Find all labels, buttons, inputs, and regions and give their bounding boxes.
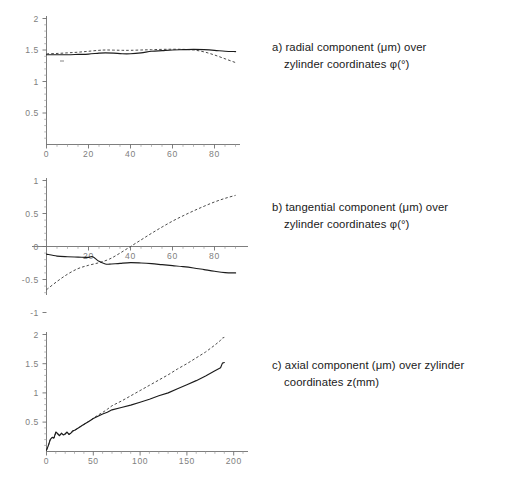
chart-c-xtick-100: 100 [132,456,148,466]
chart-c-x-ticks [47,452,244,456]
chart-a-series-simulated [47,49,236,62]
chart-c-series-measured [47,363,225,451]
panel-b-caption: b) tangential component (μm) over zylind… [272,182,448,250]
panel-c: 2 1.5 1 0.5 [0,320,532,481]
chart-c-xtick-50: 50 [88,456,99,466]
chart-b-ytick-1: 1 [34,176,39,186]
chart-b-xtick-40: 40 [125,251,136,261]
chart-b-ytick-neg0p5: -0.5 [22,275,39,285]
chart-c-y-ticks [43,335,47,446]
chart-a-ytick-1: 1 [34,77,39,87]
chart-c-series-simulated [47,337,225,450]
chart-a-ytick-0p5: 0.5 [25,108,39,118]
chart-b-ytick-0: 0 [34,242,39,252]
chart-c-ytick-2: 2 [34,330,39,340]
chart-a-ytick-1p5: 1.5 [25,45,39,55]
chart-a-xtick-20: 20 [83,149,94,159]
chart-c-svg: 2 1.5 1 0.5 [0,320,266,481]
panel-a-plot: 2 1.5 1 0.5 [0,0,266,160]
chart-b-xtick-20: 20 [83,251,94,261]
panel-a-caption-line2: zylinder coordinates φ(°) [272,56,426,73]
panel-c-caption-line2: coordinates z(mm) [272,374,464,391]
chart-a-xtick-40: 40 [125,149,136,159]
chart-b-xtick-80: 80 [209,251,220,261]
chart-a-ytick-2: 2 [34,14,39,24]
chart-b-x-ticks [57,247,236,251]
panel-c-caption-line1: c) axial component (μm) over zylinder [272,359,464,371]
panel-b-caption-line2: zylinder coordinates φ(°) [272,216,448,233]
chart-a-xtick-0: 0 [44,149,49,159]
chart-b-y-ticks [43,181,47,313]
chart-c-xtick-150: 150 [179,456,195,466]
panel-b: 1 0.5 0 -0.5 -1 [0,160,532,320]
chart-b-xtick-60: 60 [167,251,178,261]
panel-b-caption-line1: b) tangential component (μm) over [272,201,448,213]
chart-c-xtick-200: 200 [226,456,242,466]
chart-c-ytick-1p5: 1.5 [25,359,39,369]
chart-a-svg: 2 1.5 1 0.5 [0,0,266,160]
chart-b-series-simulated [47,195,236,289]
chart-c-ytick-0p5: 0.5 [25,417,39,427]
panel-c-plot: 2 1.5 1 0.5 [0,320,266,481]
chart-c-ytick-1: 1 [34,388,39,398]
chart-b-ytick-0p5: 0.5 [25,209,39,219]
panel-c-caption: c) axial component (μm) over zylinder co… [272,340,464,408]
panel-a: 2 1.5 1 0.5 [0,0,532,160]
chart-a-x-ticks [47,145,236,149]
panel-b-plot: 1 0.5 0 -0.5 -1 [0,160,266,320]
chart-a-xtick-60: 60 [167,149,178,159]
panel-a-caption-line1: a) radial component (μm) over [272,41,426,53]
figure-root: 2 1.5 1 0.5 [0,0,532,481]
chart-a-xtick-80: 80 [209,149,220,159]
chart-c-xtick-0: 0 [44,456,49,466]
chart-a-y-ticks [43,19,47,139]
chart-b-ytick-neg1: -1 [30,308,39,318]
chart-b-svg: 1 0.5 0 -0.5 -1 [0,160,266,320]
panel-a-caption: a) radial component (μm) over zylinder c… [272,22,426,90]
